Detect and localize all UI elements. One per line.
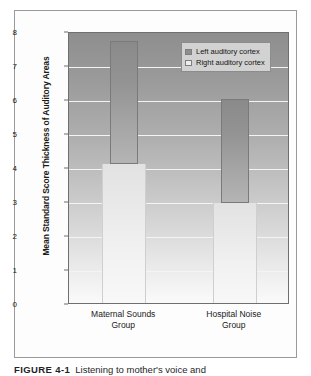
chart-legend: Left auditory cortex Right auditory cort…: [181, 42, 271, 72]
x-axis-category-line: Maternal Sounds: [68, 309, 178, 320]
bar-left-auditory-cortex: [110, 41, 138, 164]
x-axis-category-line: Group: [68, 320, 178, 331]
y-axis-tick-label: 0: [0, 300, 17, 309]
y-axis-tick-label: 8: [0, 28, 17, 37]
caption-text: Listening to mother's voice and: [75, 364, 206, 375]
y-axis-title: Mean Standard Score Thickness of Auditor…: [41, 31, 51, 281]
gridline: [69, 101, 288, 102]
bar-left-auditory-cortex: [221, 99, 249, 203]
caption-number: FIGURE 4-1: [14, 364, 70, 375]
x-axis-category-line: Hospital Noise: [179, 309, 289, 320]
x-axis-category-line: Group: [179, 320, 289, 331]
x-axis-category-label: Maternal SoundsGroup: [68, 309, 178, 331]
y-axis-tick-label: 2: [0, 232, 17, 241]
x-axis-category-label: Hospital NoiseGroup: [179, 309, 289, 331]
y-axis-tick-label: 1: [0, 266, 17, 275]
legend-item-label: Left auditory cortex: [196, 47, 260, 56]
legend-item-label: Right auditory cortex: [196, 58, 265, 67]
bar-right-auditory-cortex: [213, 203, 257, 304]
figure-caption: FIGURE 4-1Listening to mother's voice an…: [14, 364, 304, 375]
y-axis-tick-label: 7: [0, 62, 17, 71]
y-axis-tick-label: 5: [0, 130, 17, 139]
y-axis-tick-label: 4: [0, 164, 17, 173]
figure-card: Mean Standard Score Thickness of Auditor…: [14, 10, 297, 358]
legend-swatch-icon: [185, 49, 192, 55]
y-axis-tick-label: 6: [0, 96, 17, 105]
legend-item-left-auditory-cortex: Left auditory cortex: [185, 46, 265, 57]
bar-right-auditory-cortex: [102, 164, 146, 304]
legend-swatch-icon: [185, 60, 192, 66]
y-axis-tick-label: 3: [0, 198, 17, 207]
legend-item-right-auditory-cortex: Right auditory cortex: [185, 57, 265, 68]
plot-area: Left auditory cortex Right auditory cort…: [68, 32, 289, 304]
gridline: [69, 135, 288, 136]
